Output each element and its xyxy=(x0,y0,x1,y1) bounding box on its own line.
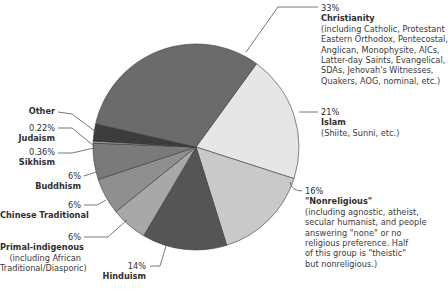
islam-desc-line: (Shiite, Sunni, etc.) xyxy=(321,128,399,138)
other-name: Other xyxy=(0,106,55,116)
buddhism-percent: 6% xyxy=(0,171,81,181)
leader-primal xyxy=(84,220,127,237)
leader-sikhism xyxy=(58,148,94,153)
leader-christianity xyxy=(246,7,318,52)
christianity-desc-line: Latter-day Saints, Evangelical, xyxy=(321,55,448,65)
nonreligious-desc-line: answering "none" or no xyxy=(305,228,427,238)
nonreligious-desc-line: but nonreligious.) xyxy=(305,259,427,269)
chinese-name: Chinese Traditional xyxy=(0,210,81,220)
leader-chinese xyxy=(84,200,106,205)
christianity-desc-line: Quakers, AOG, nominal, etc.) xyxy=(321,76,448,86)
judaism-name: Judaism xyxy=(0,133,55,143)
hinduism-name: Hinduism xyxy=(100,271,146,281)
label-christianity: 33% Christianity (including Catholic, Pr… xyxy=(321,3,448,86)
islam-percent: 21% xyxy=(321,107,399,117)
label-hinduism: 14% Hinduism xyxy=(100,261,146,282)
label-nonreligious: 16% "Nonreligious" (including agnostic, … xyxy=(305,186,427,269)
label-judaism: 0.22% Judaism xyxy=(0,123,55,144)
christianity-desc-line: SDAs, Jehovah's Witnesses, xyxy=(321,65,448,75)
label-primal-indigenous: 6% Primal-indigenous (including African … xyxy=(0,232,81,274)
primal-desc-line: (including African xyxy=(0,253,81,263)
sikhism-percent: 0.36% xyxy=(0,147,55,157)
leader-other xyxy=(58,112,96,132)
christianity-desc-line: Anglican, Monophysite, AICs, xyxy=(321,45,448,55)
primal-percent: 6% xyxy=(0,232,81,242)
leader-hinduism xyxy=(150,246,166,266)
islam-name: Islam xyxy=(321,117,399,127)
sikhism-name: Sikhism xyxy=(0,157,55,167)
nonreligious-desc-line: secular humanist, and people xyxy=(305,217,427,227)
label-sikhism: 0.36% Sikhism xyxy=(0,147,55,168)
buddhism-name: Buddhism xyxy=(0,181,81,191)
christianity-desc-line: Eastern Orthodox, Pentecostal, xyxy=(321,34,448,44)
chinese-percent: 6% xyxy=(0,200,81,210)
christianity-desc-line: (including Catholic, Protestant xyxy=(321,24,448,34)
label-buddhism: 6% Buddhism xyxy=(0,171,81,192)
leader-buddhism xyxy=(84,172,96,176)
primal-desc-line: Traditional/Diasporic) xyxy=(0,263,81,273)
primal-name: Primal-indigenous xyxy=(0,242,81,252)
christianity-percent: 33% xyxy=(321,3,448,13)
label-other: Other xyxy=(0,106,55,116)
judaism-percent: 0.22% xyxy=(0,123,55,133)
nonreligious-name: "Nonreligious" xyxy=(305,196,427,206)
label-islam: 21% Islam (Shiite, Sunni, etc.) xyxy=(321,107,399,138)
christianity-name: Christianity xyxy=(321,13,448,23)
label-chinese-traditional: 6% Chinese Traditional xyxy=(0,200,81,221)
nonreligious-desc-line: of this group is "theistic" xyxy=(305,248,427,258)
nonreligious-percent: 16% xyxy=(305,186,427,196)
nonreligious-desc-line: (including agnostic, atheist, xyxy=(305,207,427,217)
leader-judaism xyxy=(58,128,94,146)
hinduism-percent: 14% xyxy=(100,261,146,271)
nonreligious-desc-line: religious preference. Half xyxy=(305,238,427,248)
